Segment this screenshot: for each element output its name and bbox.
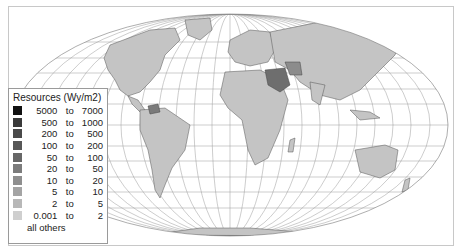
legend-row: 200to500 [13, 128, 103, 140]
legend-to: to [57, 163, 78, 174]
legend-low: 5 [27, 186, 57, 197]
legend-row: 2to5 [13, 198, 103, 210]
legend-high: 5 [78, 198, 103, 209]
legend-title: Resources (Wy/m2) [13, 92, 103, 103]
legend-high: 2 [78, 210, 103, 221]
legend-high: 20 [78, 175, 103, 186]
legend-swatch [13, 176, 22, 185]
legend-high: 500 [78, 128, 103, 139]
legend-low: 0.001 [27, 210, 57, 221]
legend-row: 100to200 [13, 140, 103, 152]
legend-high: 50 [78, 163, 103, 174]
legend-all-others: all others [13, 222, 103, 233]
legend-swatch [13, 153, 22, 162]
legend-to: to [57, 140, 78, 151]
venezuela-region [148, 104, 160, 114]
legend-high: 10 [78, 186, 103, 197]
legend-low: 2 [27, 198, 57, 209]
legend-high: 7000 [78, 105, 103, 116]
legend: Resources (Wy/m2) 5000to7000500to1000200… [8, 88, 108, 244]
legend-swatch [13, 118, 22, 127]
legend-row: 500to1000 [13, 117, 103, 129]
legend-swatch [13, 129, 22, 138]
legend-swatch [13, 199, 22, 208]
legend-low: 10 [27, 175, 57, 186]
legend-high: 1000 [78, 117, 103, 128]
legend-to: to [57, 105, 78, 116]
legend-to: to [57, 198, 78, 209]
legend-row: 5000to7000 [13, 105, 103, 117]
legend-to: to [57, 175, 78, 186]
legend-row: 0.001to2 [13, 209, 103, 221]
legend-row: 10to20 [13, 175, 103, 187]
legend-swatch [13, 211, 22, 220]
legend-low: 5000 [27, 105, 57, 116]
legend-to: to [57, 117, 78, 128]
legend-to: to [57, 152, 78, 163]
legend-low: 500 [27, 117, 57, 128]
land-masses [104, 18, 410, 236]
legend-swatch [13, 187, 22, 196]
legend-swatch [13, 141, 22, 150]
legend-low: 100 [27, 140, 57, 151]
legend-swatch [13, 106, 22, 115]
legend-high: 200 [78, 140, 103, 151]
legend-row: 50to100 [13, 151, 103, 163]
legend-low: 20 [27, 163, 57, 174]
legend-low: 200 [27, 128, 57, 139]
legend-high: 100 [78, 152, 103, 163]
legend-to: to [57, 186, 78, 197]
legend-row: 20to50 [13, 163, 103, 175]
legend-row: 5to10 [13, 186, 103, 198]
legend-to: to [57, 128, 78, 139]
legend-to: to [57, 210, 78, 221]
legend-low: 50 [27, 152, 57, 163]
legend-swatch [13, 164, 22, 173]
